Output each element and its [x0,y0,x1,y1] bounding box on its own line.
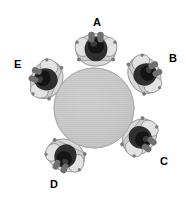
seat-label-c: C [160,156,168,167]
seat-label-d: D [50,179,58,190]
round-table [54,68,134,148]
seat-label-e: E [14,59,21,70]
seating-diagram: A B C D E [0,0,186,201]
person-A[interactable] [75,32,117,66]
seat-label-a: A [93,17,101,28]
seat-label-b: B [169,53,177,64]
diagram-canvas [0,0,186,201]
